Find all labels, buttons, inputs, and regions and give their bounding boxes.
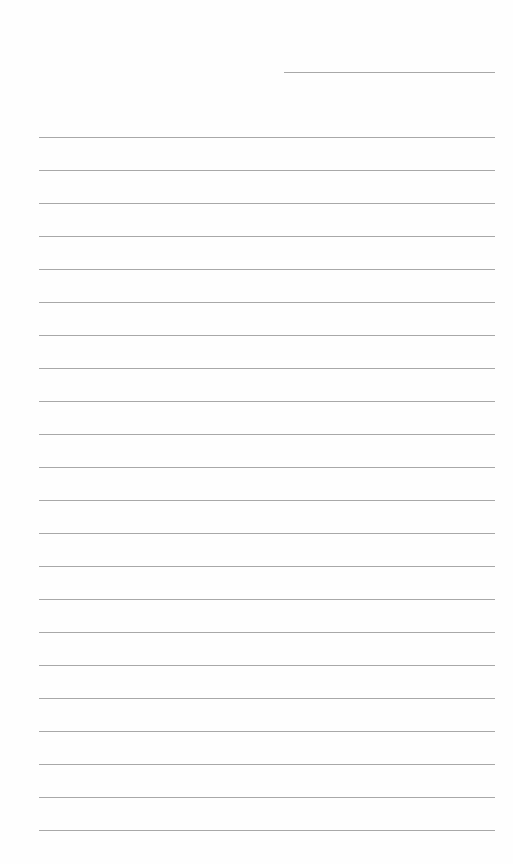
ruled-line — [39, 269, 495, 270]
ruled-line — [39, 533, 495, 534]
lined-paper-page — [0, 0, 513, 864]
ruled-line — [39, 764, 495, 765]
ruled-line — [39, 335, 495, 336]
ruled-line — [39, 302, 495, 303]
ruled-line — [39, 434, 495, 435]
ruled-line — [39, 170, 495, 171]
ruled-line — [39, 731, 495, 732]
ruled-lines — [39, 0, 495, 864]
ruled-line — [39, 500, 495, 501]
ruled-line — [39, 797, 495, 798]
ruled-line — [39, 566, 495, 567]
ruled-line — [39, 401, 495, 402]
ruled-line — [39, 665, 495, 666]
ruled-line — [39, 236, 495, 237]
ruled-line — [39, 368, 495, 369]
ruled-line — [39, 830, 495, 831]
ruled-line — [39, 632, 495, 633]
ruled-line — [39, 698, 495, 699]
ruled-line — [39, 467, 495, 468]
ruled-line — [39, 599, 495, 600]
ruled-line — [39, 137, 495, 138]
ruled-line — [39, 203, 495, 204]
